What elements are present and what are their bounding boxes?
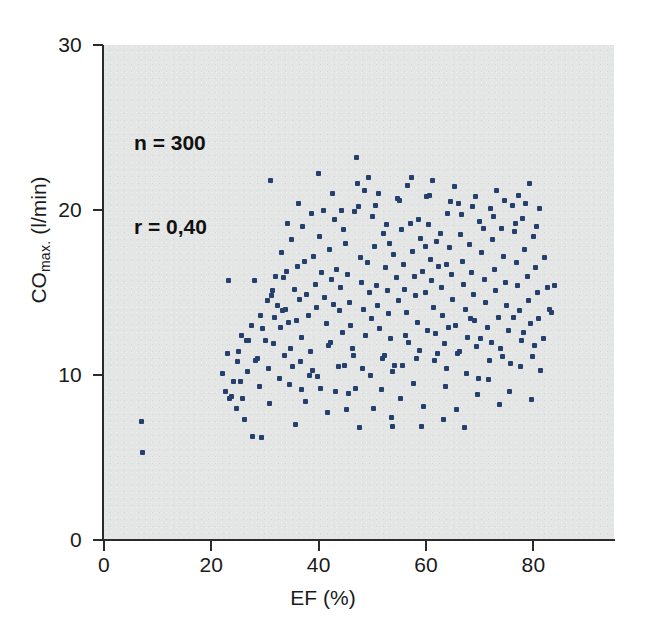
data-point <box>307 373 312 378</box>
data-point <box>296 201 301 206</box>
data-point <box>419 424 424 429</box>
y-axis-line <box>102 45 104 541</box>
data-point <box>502 198 507 203</box>
data-point <box>538 368 543 373</box>
y-axis-label-subscript: max. <box>37 241 53 273</box>
data-point <box>351 353 356 358</box>
data-point <box>469 270 474 275</box>
data-point <box>392 363 397 368</box>
data-point <box>346 391 351 396</box>
x-tick-label: 40 <box>289 554 349 575</box>
data-point <box>479 250 484 255</box>
y-tick-label: 0 <box>38 529 82 550</box>
data-point <box>404 310 409 315</box>
data-point <box>367 290 372 295</box>
data-point <box>352 209 357 214</box>
data-point <box>525 274 530 279</box>
data-point <box>517 308 522 313</box>
data-point <box>513 221 518 226</box>
data-point <box>336 364 341 369</box>
data-point <box>325 410 330 415</box>
data-point <box>485 325 490 330</box>
x-axis-label: EF (%) <box>0 586 646 610</box>
data-point <box>289 237 294 242</box>
data-point <box>250 434 255 439</box>
data-point <box>545 285 550 290</box>
statistics-annotation: n = 300 r = 0,40 <box>134 73 207 297</box>
data-point <box>366 175 371 180</box>
data-point <box>409 175 414 180</box>
data-point <box>358 255 363 260</box>
data-point <box>383 265 388 270</box>
data-point <box>541 336 546 341</box>
data-point <box>384 222 389 227</box>
data-point <box>298 359 303 364</box>
data-point <box>388 336 393 341</box>
data-point <box>280 308 285 313</box>
data-point <box>444 262 449 267</box>
data-point <box>536 316 541 321</box>
data-point <box>239 333 244 338</box>
x-tick-label: 60 <box>396 554 456 575</box>
data-point <box>423 290 428 295</box>
data-point <box>449 272 454 277</box>
data-point <box>500 354 505 359</box>
y-tick-label: 10 <box>38 364 82 385</box>
data-point <box>460 259 465 264</box>
data-point <box>140 450 145 455</box>
data-point <box>529 397 534 402</box>
data-point <box>278 325 283 330</box>
data-point <box>535 290 540 295</box>
data-point <box>399 227 404 232</box>
data-point <box>396 298 401 303</box>
y-tick-mark <box>93 44 103 46</box>
data-point <box>514 260 519 265</box>
data-point <box>313 282 318 287</box>
data-point <box>507 389 512 394</box>
x-tick-mark <box>318 541 320 551</box>
data-point <box>299 387 304 392</box>
data-point <box>425 328 430 333</box>
data-point <box>260 326 265 331</box>
data-point <box>340 330 345 335</box>
data-point <box>403 333 408 338</box>
data-point <box>508 361 513 366</box>
data-point <box>263 338 268 343</box>
data-point <box>225 351 230 356</box>
data-point <box>530 354 535 359</box>
data-point <box>306 313 311 318</box>
data-point <box>475 392 480 397</box>
data-point <box>359 280 364 285</box>
data-point <box>474 344 479 349</box>
data-point <box>226 278 231 283</box>
data-point <box>512 229 517 234</box>
data-point <box>442 341 447 346</box>
data-point <box>506 328 511 333</box>
data-point <box>309 211 314 216</box>
x-tick-mark <box>532 541 534 551</box>
data-point <box>461 282 466 287</box>
data-point <box>489 340 494 345</box>
data-point <box>438 231 443 236</box>
data-point <box>415 320 420 325</box>
data-point <box>405 183 410 188</box>
data-point <box>370 214 375 219</box>
data-point <box>552 283 557 288</box>
data-point <box>314 305 319 310</box>
data-point <box>492 267 497 272</box>
data-point <box>501 254 506 259</box>
data-point <box>389 415 394 420</box>
data-point <box>238 379 243 384</box>
data-point <box>337 308 342 313</box>
data-point <box>361 307 366 312</box>
data-point <box>406 340 411 345</box>
data-point <box>427 193 432 198</box>
data-point <box>428 257 433 262</box>
data-point <box>527 181 532 186</box>
data-point <box>272 315 277 320</box>
data-point <box>223 389 228 394</box>
data-point <box>350 346 355 351</box>
data-point <box>416 217 421 222</box>
data-point <box>348 323 353 328</box>
data-point <box>373 203 378 208</box>
